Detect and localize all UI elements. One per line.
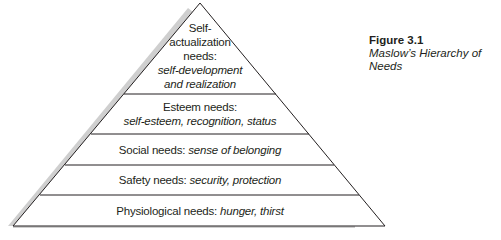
level-examples: sense of belonging [188,144,281,156]
level-name: Social needs: [119,144,185,156]
level-name: Physiological needs: [116,205,217,217]
level-self-actualization: Self- actualization needs: self-developm… [0,21,400,91]
level-examples: security, protection [190,174,282,186]
level-name: Esteem needs: [0,100,400,114]
level-examples: hunger, thirst [220,205,284,217]
level-examples-line: self-development [158,64,242,76]
level-name-line: actualization [0,35,400,49]
figure-number: Figure 3.1 [369,34,501,47]
level-social: Social needs: sense of belonging [0,143,400,157]
level-name-line: Self- [0,21,400,35]
level-physiological: Physiological needs: hunger, thirst [0,204,400,218]
figure-title: Maslow’s Hierarchy of Needs [369,47,501,73]
level-safety: Safety needs: security, protection [0,173,400,187]
level-esteem: Esteem needs: self-esteem, recognition, … [0,100,400,128]
level-name: Safety needs: [119,174,187,186]
level-examples-line: and realization [164,78,236,90]
figure-caption: Figure 3.1 Maslow’s Hierarchy of Needs [369,34,501,73]
level-name-line: needs: [0,49,400,63]
level-examples: self-esteem, recognition, status [124,115,277,127]
